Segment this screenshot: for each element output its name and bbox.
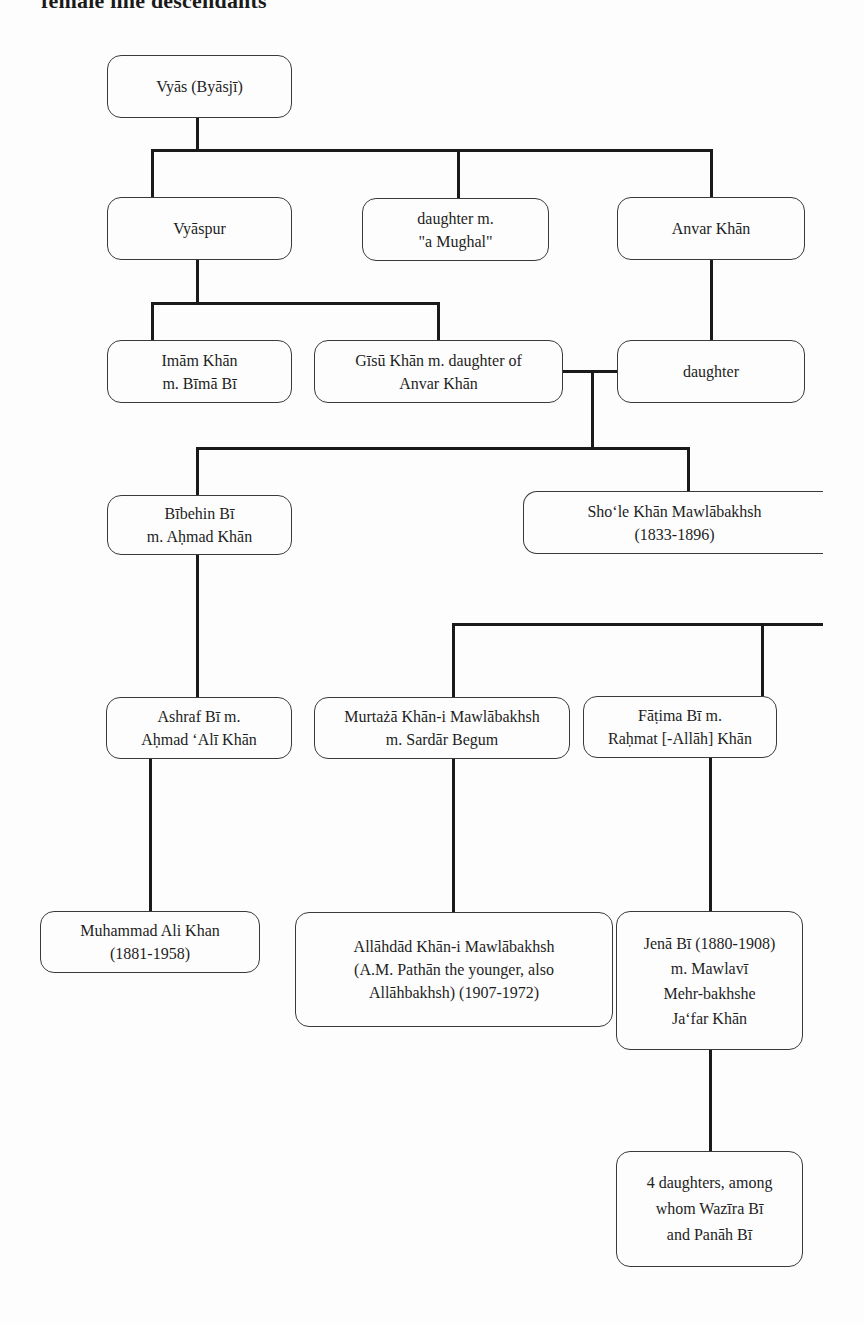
node-daughter-mughal: daughter m. "a Mughal" (362, 198, 549, 261)
node-four-daughters: 4 daughters, among whom Wazīra Bī and Pa… (616, 1151, 803, 1267)
node-bibehin-bi: Bībehin Bī m. Aḥmad Khān (107, 495, 292, 555)
connector (687, 447, 690, 497)
connector (710, 258, 713, 341)
connector (151, 149, 154, 199)
node-muhammad-ali-khan: Muhammad Ali Khan (1881-1958) (40, 911, 260, 973)
marriage-connector (561, 370, 618, 373)
node-jena-bi: Jenā Bī (1880-1908) m. Mawlavī Mehr-bakh… (616, 911, 803, 1050)
connector (709, 1048, 712, 1153)
node-gisu-khan: Gīsū Khān m. daughter of Anvar Khān (314, 340, 563, 403)
connector (452, 623, 455, 698)
connector (709, 758, 712, 913)
node-murtaza-khan: Murtażā Khān-i Mawlābakhsh m. Sardār Beg… (314, 697, 570, 759)
connector (149, 758, 152, 913)
node-imam-khan: Imām Khān m. Bīmā Bī (107, 340, 292, 403)
connector (196, 258, 199, 304)
connector (196, 447, 199, 497)
connector (710, 149, 713, 199)
family-tree-diagram: Vyās (Byāsjī) Vyāspur daughter m. "a Mug… (0, 0, 823, 1325)
connector (196, 447, 690, 450)
connector (151, 302, 154, 342)
connector (452, 623, 823, 626)
connector (151, 149, 713, 152)
node-allahdad-khan: Allāhdād Khān-i Mawlābakhsh (A.M. Pathān… (295, 912, 613, 1027)
node-fatima-bi: Fāṭima Bī m. Raḥmat [-Allāh] Khān (583, 696, 777, 758)
connector (452, 758, 455, 913)
node-ashraf-bi: Ashraf Bī m. Aḥmad ‘Alī Khān (106, 697, 292, 759)
connector (437, 302, 440, 342)
connector (591, 370, 594, 450)
node-anvar-khan: Anvar Khān (617, 197, 805, 260)
connector (196, 117, 199, 152)
connector (151, 302, 440, 305)
connector (196, 553, 199, 698)
connector (457, 149, 460, 199)
connector (761, 623, 764, 698)
node-vyaspur: Vyāspur (107, 197, 292, 260)
node-vyas: Vyās (Byāsjī) (107, 55, 292, 118)
node-daughter: daughter (617, 340, 805, 403)
node-shole-khan: Sho‘le Khān Mawlābakhsh (1833-1896) (523, 491, 823, 554)
